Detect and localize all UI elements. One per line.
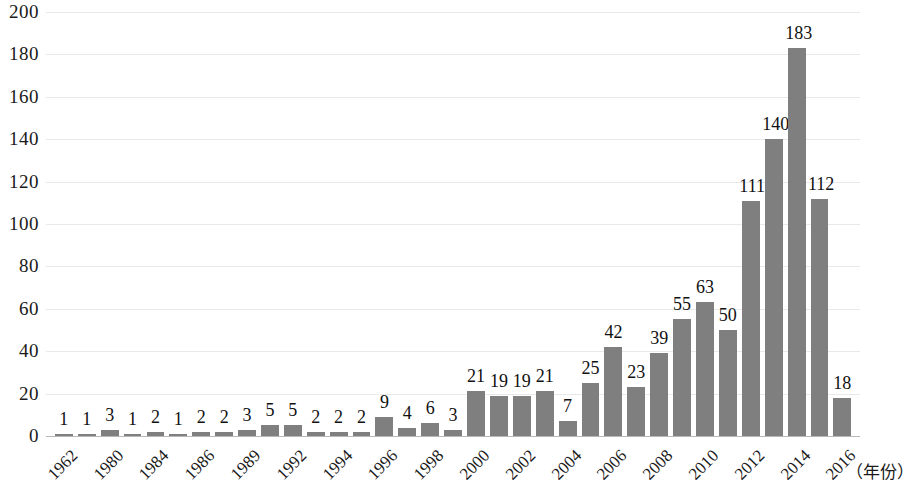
bar-slot: 3 [442,12,465,436]
bar-slot: 2 [144,12,167,436]
bar-slot: 2 [327,12,350,436]
bar-2006[interactable] [604,347,622,436]
bar-slot: 2 [350,12,373,436]
bar-slot: 1 [52,12,75,436]
bar-value-label: 6 [419,398,442,419]
bar-value-label: 2 [327,407,350,428]
y-axis-tick-160: 160 [9,86,39,108]
bar-2004[interactable] [559,421,577,436]
bar-1989[interactable] [238,430,256,436]
bar-value-label: 5 [281,400,304,421]
bar-value-label: 23 [625,362,648,383]
bar-1998[interactable] [421,423,439,436]
bar-value-label: 3 [236,405,259,426]
bar-slot: 111 [739,12,762,436]
bar-2012[interactable] [742,201,760,436]
y-axis-tick-40: 40 [19,340,39,362]
bar-1983[interactable] [124,434,142,436]
bar-2005[interactable] [582,383,600,436]
bar-value-label: 18 [831,373,854,394]
bar-slot: 5 [281,12,304,436]
bar-2002[interactable] [513,396,531,436]
bar-slot: 21 [533,12,556,436]
bar-2008[interactable] [650,353,668,436]
y-axis-tick-100: 100 [9,213,39,235]
bar-value-label: 21 [465,366,488,387]
bar-value-label: 140 [762,114,785,135]
bar-1985[interactable] [169,434,187,436]
bar-slot: 183 [785,12,808,436]
x-axis-tick-2014: 2014 [768,446,815,491]
bar-value-label: 21 [533,366,556,387]
bar-2010[interactable] [696,302,714,436]
bar-value-label: 63 [694,277,717,298]
bar-2015[interactable] [811,199,829,436]
bar-1984[interactable] [147,432,165,436]
bar-slot: 1 [167,12,190,436]
bar-1988[interactable] [215,432,233,436]
bar-value-label: 112 [808,174,831,195]
bar-1994[interactable] [330,432,348,436]
y-axis-tick-200: 200 [9,1,39,23]
bar-value-label: 2 [213,407,236,428]
bar-2003[interactable] [536,391,554,436]
bar-1996[interactable] [375,417,393,436]
bar-slot: 23 [625,12,648,436]
bar-slot: 5 [258,12,281,436]
bar-1979[interactable] [78,434,96,436]
bar-value-label: 1 [167,409,190,430]
bar-slot: 50 [716,12,739,436]
bar-value-label: 5 [258,400,281,421]
bar-1999[interactable] [444,430,462,436]
bar-1986[interactable] [192,432,210,436]
bar-slot: 19 [510,12,533,436]
bar-value-label: 9 [373,392,396,413]
y-axis-tick-60: 60 [19,298,39,320]
bar-1962[interactable] [55,434,73,436]
bar-2014[interactable] [788,48,806,436]
bar-1993[interactable] [307,432,325,436]
bar-1997[interactable] [398,428,416,436]
bar-value-label: 4 [396,403,419,424]
bar-slot: 9 [373,12,396,436]
bar-1995[interactable] [353,432,371,436]
bar-value-label: 39 [648,328,671,349]
x-axis-tick-1996: 1996 [356,446,403,491]
bar-value-label: 2 [144,407,167,428]
bar-value-label: 50 [716,305,739,326]
bar-2001[interactable] [490,396,508,436]
y-axis-tick-120: 120 [9,171,39,193]
bar-slot: 3 [236,12,259,436]
bar-slot: 63 [694,12,717,436]
bar-2007[interactable] [627,387,645,436]
y-axis-tick-80: 80 [19,255,39,277]
x-axis-tick-2000: 2000 [447,446,494,491]
y-axis-tick-140: 140 [9,128,39,150]
bar-1992[interactable] [284,425,302,436]
x-axis-tick-1984: 1984 [127,446,174,491]
bar-slot: 1 [121,12,144,436]
bar-value-label: 3 [98,405,121,426]
bar-slot: 140 [762,12,785,436]
bar-slot: 55 [671,12,694,436]
bar-2011[interactable] [719,330,737,436]
bar-1990[interactable] [261,425,279,436]
bar-slot: 42 [602,12,625,436]
bar-value-label: 19 [487,371,510,392]
x-axis-tick-2002: 2002 [493,446,540,491]
bar-value-label: 1 [121,409,144,430]
x-axis-tick-2004: 2004 [539,446,586,491]
bar-1980[interactable] [101,430,119,436]
gridline-0: 0 [46,436,860,437]
bar-2000[interactable] [467,391,485,436]
bar-value-label: 183 [785,23,808,44]
bar-value-label: 2 [304,407,327,428]
bar-2013[interactable] [765,139,783,436]
bar-slot: 2 [304,12,327,436]
bar-value-label: 19 [510,371,533,392]
bar-2009[interactable] [673,319,691,436]
plot-area: 020406080100120140160180200 113121223552… [46,12,860,436]
bar-2016[interactable] [833,398,851,436]
bar-value-label: 42 [602,322,625,343]
bar-slot: 3 [98,12,121,436]
